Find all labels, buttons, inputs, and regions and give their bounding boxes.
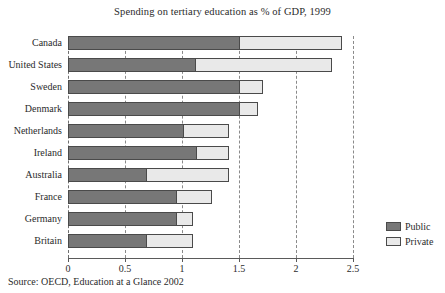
bar-segment-public (68, 146, 196, 160)
legend-item-private: Private (386, 236, 433, 249)
bar-row (68, 190, 212, 204)
bar-segment-public (68, 124, 183, 138)
x-tick-0.5 (125, 258, 126, 262)
category-label-united-states: United States (8, 58, 62, 72)
bar-row (68, 146, 229, 160)
x-tick-1.5 (239, 258, 240, 262)
bar-segment-private (195, 58, 333, 72)
category-label-france: France (35, 190, 62, 204)
bar-row (68, 124, 229, 138)
bar-row (68, 80, 263, 94)
x-tick-label-0: 0 (66, 263, 71, 274)
category-label-denmark: Denmark (25, 102, 62, 116)
plot-area (68, 36, 353, 258)
x-axis-line (68, 258, 354, 259)
bar-segment-private (146, 168, 229, 182)
legend-swatch-private (386, 237, 401, 246)
bar-row (68, 212, 193, 226)
chart-figure: Spending on tertiary education as % of G… (0, 0, 445, 293)
bar-segment-private (176, 190, 211, 204)
x-tick-label-1.5: 1.5 (233, 263, 246, 274)
bar-segment-private (146, 234, 194, 248)
bar-segment-private (176, 212, 193, 226)
bar-row (68, 102, 258, 116)
x-tick-0 (68, 258, 69, 262)
x-tick-2.5 (353, 258, 354, 262)
bar-segment-public (68, 234, 146, 248)
bar-segment-public (68, 190, 176, 204)
x-tick-label-2.5: 2.5 (347, 263, 360, 274)
legend-label: Public (405, 221, 431, 232)
bar-segment-private (239, 102, 258, 116)
legend-swatch-public (386, 222, 401, 231)
bar-row (68, 36, 342, 50)
category-label-britain: Britain (34, 234, 62, 248)
bar-segment-private (239, 36, 342, 50)
chart-title: Spending on tertiary education as % of G… (0, 6, 445, 17)
category-label-ireland: Ireland (34, 146, 62, 160)
x-tick-1 (182, 258, 183, 262)
category-label-australia: Australia (25, 168, 62, 182)
bar-row (68, 58, 332, 72)
legend-item-public: Public (386, 221, 433, 234)
bar-segment-public (68, 36, 239, 50)
bar-segment-public (68, 80, 239, 94)
x-tick-label-1: 1 (180, 263, 185, 274)
bar-segment-public (68, 102, 239, 116)
bar-segment-public (68, 212, 176, 226)
bar-segment-public (68, 168, 146, 182)
bar-series-group (68, 36, 353, 258)
category-label-sweden: Sweden (30, 80, 62, 94)
category-label-netherlands: Netherlands (14, 124, 62, 138)
source-note: Source: OECD, Education at a Glance 2002 (8, 276, 184, 287)
x-tick-label-0.5: 0.5 (119, 263, 132, 274)
bar-row (68, 168, 229, 182)
gridline-2.5 (353, 36, 354, 258)
category-label-germany: Germany (25, 212, 62, 226)
bar-row (68, 234, 193, 248)
bar-segment-private (196, 146, 229, 160)
x-tick-2 (296, 258, 297, 262)
chart-legend: PublicPrivate (386, 221, 433, 251)
legend-label: Private (405, 236, 433, 247)
bar-segment-private (239, 80, 263, 94)
bar-segment-public (68, 58, 195, 72)
x-tick-label-2: 2 (294, 263, 299, 274)
category-label-canada: Canada (32, 36, 62, 50)
bar-segment-private (183, 124, 229, 138)
